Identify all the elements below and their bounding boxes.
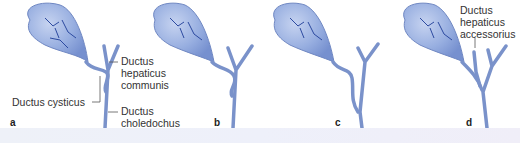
cystic-duct-c — [333, 62, 358, 112]
label-line: hepaticus — [460, 16, 515, 28]
panel-c-illustration — [274, 3, 378, 128]
bile-duct-variants-illustration — [0, 0, 520, 128]
cystic-duct-a — [86, 62, 108, 92]
cystic-duct-b — [212, 62, 235, 96]
footer-strip — [0, 128, 520, 143]
panel-letter-b: b — [214, 117, 220, 128]
gallbladder-d — [404, 3, 464, 62]
label-line: Ductus — [460, 4, 515, 16]
leader-line-cystic-duct — [92, 76, 100, 102]
panel-letter-a: a — [10, 117, 16, 128]
accessory-hepatic-duct-d — [474, 52, 480, 86]
gallbladder-c — [274, 3, 334, 62]
label-cystic-duct: Ductus cysticus — [12, 96, 85, 108]
hepatic-duct-d — [483, 46, 506, 128]
hepatic-duct-a — [104, 46, 118, 128]
label-line: Ductus — [121, 55, 169, 67]
label-common-hepatic-duct: Ductus hepaticus communis — [121, 55, 169, 91]
panel-letter-c: c — [335, 117, 341, 128]
label-line: accessorius — [460, 28, 515, 40]
gallbladder-b — [154, 3, 214, 62]
label-common-bile-duct: Ductus choledochus — [121, 105, 180, 129]
label-line: Ductus — [121, 105, 180, 117]
label-line: communis — [121, 79, 169, 91]
label-accessory-hepatic-duct: Ductus hepaticus accessorius — [460, 4, 515, 40]
hepatic-duct-c — [358, 44, 378, 128]
gallbladder-a — [28, 3, 88, 62]
panel-letter-d: d — [466, 117, 472, 128]
label-line: hepaticus — [121, 67, 169, 79]
panel-a-illustration — [28, 3, 118, 128]
